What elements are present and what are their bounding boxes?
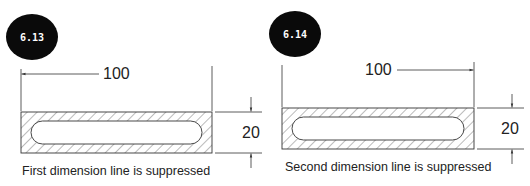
badge-label: 6.14 <box>283 29 307 40</box>
figure-6-14: 6.14 100 20 Second dimension line is sup… <box>269 11 524 174</box>
figure-6-13: 6.13 100 20 First dimension line is supp… <box>6 14 262 178</box>
slot-opening <box>292 117 464 140</box>
dimension-diagram: 6.13 100 20 First dimension line is supp… <box>0 0 530 186</box>
badge-label: 6.13 <box>20 32 44 43</box>
dimension-value-height: 20 <box>242 124 260 141</box>
figure-badge: 6.14 <box>269 11 321 57</box>
dimension-value-width: 100 <box>103 65 130 82</box>
slot-opening <box>31 121 202 144</box>
figure-caption: First dimension line is suppressed <box>22 164 210 178</box>
dimension-value-height: 20 <box>501 120 519 137</box>
dimension-value-width: 100 <box>365 61 392 78</box>
figure-caption: Second dimension line is suppressed <box>285 160 491 174</box>
figure-badge: 6.13 <box>6 14 58 60</box>
